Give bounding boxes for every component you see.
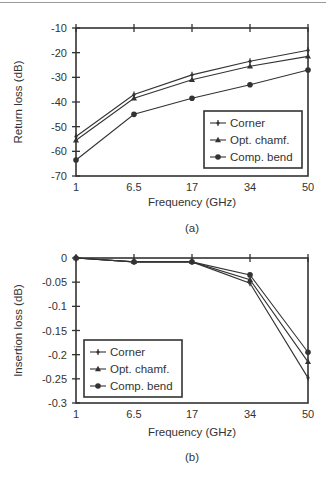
chart-panel-a: -10-20-30-40-50-60-7016.5173450Frequency… [12, 22, 314, 234]
y-tick-label: -0.3 [48, 397, 67, 409]
chart-panel-b: 0-0.05-0.1-0.15-0.2-0.25-0.316.5173450Fr… [12, 252, 314, 463]
x-tick-label: 6.5 [126, 181, 141, 193]
circle-marker-icon [131, 259, 137, 265]
triangle-marker-icon [73, 137, 79, 142]
legend-item-label: Comp. bend [230, 151, 293, 163]
x-tick-label: 6.5 [126, 408, 141, 420]
legend-item-label: Corner [230, 117, 265, 129]
legend: CornerOpt. chamf.Comp. bend [204, 111, 302, 168]
triangle-marker-icon [305, 53, 311, 58]
legend-item-label: Opt. chamf. [230, 134, 289, 146]
y-axis-title: Return loss (dB) [12, 60, 24, 143]
circle-marker-icon [215, 154, 221, 160]
y-tick-label: -40 [51, 96, 67, 108]
y-tick-label: -20 [51, 47, 67, 59]
y-tick-label: -0.25 [42, 373, 67, 385]
circle-marker-icon [73, 255, 79, 261]
legend-item-label: Opt. chamf. [110, 363, 169, 375]
y-tick-label: -0.2 [48, 349, 67, 361]
x-axis-title: Frequency (GHz) [148, 196, 236, 208]
circle-marker-icon [95, 383, 101, 389]
y-tick-label: -70 [51, 170, 67, 182]
x-tick-label: 50 [302, 408, 314, 420]
figure-canvas: -10-20-30-40-50-60-7016.5173450Frequency… [0, 0, 326, 483]
y-tick-label: -0.1 [48, 300, 67, 312]
legend-item-label: Comp. bend [110, 380, 173, 392]
circle-marker-icon [305, 349, 311, 355]
y-tick-label: -60 [51, 145, 67, 157]
y-tick-label: 0 [61, 252, 67, 264]
circle-marker-icon [189, 96, 195, 102]
x-tick-label: 1 [73, 181, 79, 193]
x-tick-label: 34 [244, 408, 256, 420]
y-tick-label: -50 [51, 121, 67, 133]
panel-label: (a) [185, 222, 199, 234]
circle-marker-icon [131, 112, 137, 118]
circle-marker-icon [247, 82, 253, 88]
circle-marker-icon [247, 272, 253, 278]
x-tick-label: 34 [244, 181, 256, 193]
circle-marker-icon [305, 67, 311, 73]
x-axis-title: Frequency (GHz) [148, 426, 236, 438]
legend: CornerOpt. chamf.Comp. bend [84, 340, 182, 397]
series-line [76, 258, 308, 352]
x-tick-label: 17 [186, 408, 198, 420]
circle-marker-icon [73, 157, 79, 163]
panel-label: (b) [185, 451, 199, 463]
x-tick-label: 50 [302, 181, 314, 193]
y-tick-label: -10 [51, 22, 67, 34]
y-tick-label: -30 [51, 71, 67, 83]
legend-item-label: Corner [110, 346, 145, 358]
x-tick-label: 1 [73, 408, 79, 420]
y-tick-label: -0.05 [42, 276, 67, 288]
circle-marker-icon [189, 259, 195, 265]
x-tick-label: 17 [186, 181, 198, 193]
y-axis-title: Insertion loss (dB) [12, 284, 24, 377]
y-tick-label: -0.15 [42, 325, 67, 337]
